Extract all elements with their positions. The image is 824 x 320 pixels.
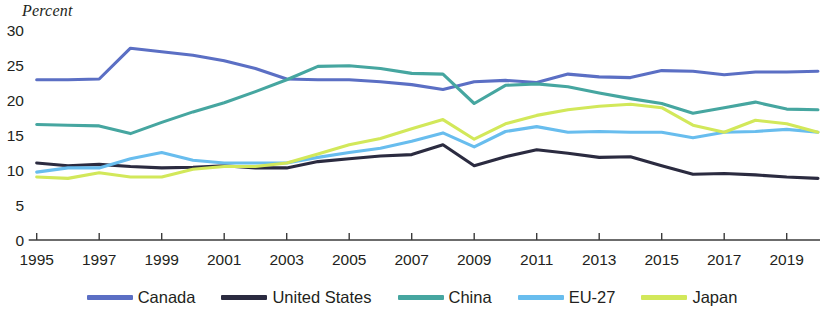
legend-item-united-states[interactable]: United States (221, 288, 371, 307)
x-axis-tick-label: 2001 (207, 251, 241, 268)
legend-swatch-icon (87, 295, 133, 300)
y-axis-tick-label: 25 (7, 57, 24, 74)
x-axis-tick-label: 2013 (582, 251, 616, 268)
chart-legend: CanadaUnited StatesChinaEU-27Japan (0, 288, 824, 307)
x-axis-tick-label: 2011 (520, 251, 553, 268)
legend-item-label: Japan (692, 288, 737, 307)
legend-item-label: Canada (138, 288, 196, 307)
y-axis-tick-label: 10 (7, 162, 25, 179)
series-line-united-states (37, 145, 818, 179)
line-chart-plot: 051015202530 199519971999200120032005200… (0, 0, 824, 320)
x-axis (29, 233, 820, 240)
legend-item-label: United States (272, 288, 371, 307)
series-line-canada (37, 48, 818, 89)
x-axis-tick-label: 2003 (269, 251, 303, 268)
data-series-group (37, 48, 818, 178)
legend-item-china[interactable]: China (398, 288, 492, 307)
x-axis-tick-labels: 1995199719992001200320052007200920112013… (19, 251, 803, 268)
x-axis-tick-label: 2005 (332, 251, 366, 268)
y-axis-tick-labels: 051015202530 (7, 22, 25, 249)
legend-item-canada[interactable]: Canada (87, 288, 196, 307)
x-axis-tick-label: 2015 (644, 251, 678, 268)
x-axis-tick-label: 2009 (457, 251, 491, 268)
legend-swatch-icon (221, 295, 267, 300)
x-axis-tick-label: 1997 (82, 251, 116, 268)
legend-swatch-icon (518, 295, 564, 300)
x-axis-tick-label: 2017 (707, 251, 741, 268)
legend-item-japan[interactable]: Japan (641, 288, 737, 307)
legend-item-label: EU-27 (569, 288, 616, 307)
x-axis-tick-label: 1995 (19, 251, 53, 268)
x-axis-tick-label: 1999 (144, 251, 178, 268)
chart-container: Percent 051015202530 1995199719992001200… (0, 0, 824, 320)
y-axis-tick-label: 20 (7, 92, 25, 109)
x-axis-tick-label: 2007 (394, 251, 428, 268)
x-axis-tick-label: 2019 (769, 251, 803, 268)
legend-swatch-icon (398, 295, 444, 300)
y-axis-tick-label: 30 (7, 22, 25, 39)
y-axis-tick-label: 0 (15, 232, 24, 249)
legend-item-label: China (449, 288, 492, 307)
y-axis-tick-label: 15 (7, 127, 24, 144)
legend-swatch-icon (641, 295, 687, 300)
y-axis-tick-label: 5 (15, 197, 24, 214)
legend-item-eu-27[interactable]: EU-27 (518, 288, 616, 307)
